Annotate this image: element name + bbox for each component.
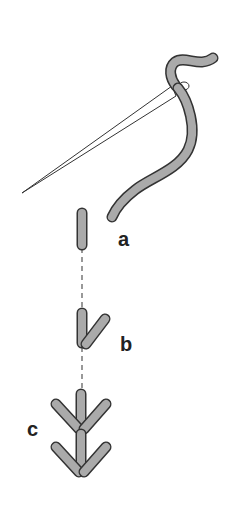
label-c: c (27, 418, 38, 441)
stitch-c (56, 394, 106, 472)
label-b: b (120, 333, 132, 356)
thread (112, 58, 213, 217)
stitch-b (82, 313, 105, 344)
label-a: a (118, 228, 129, 251)
